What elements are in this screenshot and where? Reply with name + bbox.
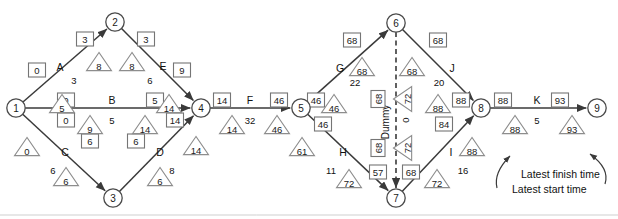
earliest-time-triangle: 46	[322, 94, 347, 113]
latest-time-value: 57	[373, 167, 384, 178]
latest-time-box: 88	[453, 93, 470, 107]
event-node-9[interactable]: 9	[588, 99, 606, 117]
latest-time-value: 84	[439, 119, 450, 130]
earliest-time-triangle: 72	[337, 169, 362, 188]
latest-time-value: 88	[456, 95, 467, 106]
latest-time-box: 57	[370, 165, 387, 179]
latest-time-box: 6	[82, 134, 99, 148]
earliest-time-value: 5	[59, 103, 64, 114]
earliest-time-triangle: 46	[265, 115, 290, 134]
event-node-label: 1	[13, 103, 19, 114]
latest-time-box: 46	[315, 117, 332, 131]
latest-time-value: 9	[179, 65, 184, 76]
earliest-time-triangle: 68	[400, 57, 425, 76]
event-node-6[interactable]: 6	[387, 14, 405, 32]
event-node-7[interactable]: 7	[387, 189, 405, 207]
latest-time-box: 68	[371, 91, 385, 108]
event-node-label: 3	[110, 193, 116, 204]
activity-duration-k: 5	[534, 115, 539, 126]
activity-name-h: H	[339, 146, 347, 158]
earliest-time-value: 8	[96, 61, 101, 72]
latest-time-value: 68	[347, 35, 358, 46]
earliest-time-value: 9	[87, 124, 92, 135]
event-node-label: 2	[112, 17, 118, 28]
earliest-time-triangle: 88	[426, 94, 451, 113]
earliest-time-value: 14	[191, 145, 202, 156]
earliest-time-value: 0	[24, 146, 29, 157]
latest-time-value: 46	[318, 119, 329, 130]
earliest-time-value: 72	[432, 178, 443, 189]
earliest-time-triangles-group: 5908814141466144668684661727288888893	[15, 52, 585, 188]
dummy-duration: 0	[400, 117, 411, 122]
activity-name-i: I	[450, 146, 453, 158]
earliest-time-triangle: 14	[133, 115, 158, 134]
event-node-1[interactable]: 1	[7, 99, 25, 117]
earliest-time-triangle: 14	[184, 136, 209, 155]
latest-time-box: 0	[29, 63, 46, 77]
event-node-label: 6	[393, 18, 399, 29]
latest-time-value: 0	[63, 115, 68, 126]
event-node-4[interactable]: 4	[192, 99, 210, 117]
earliest-time-triangle: 61	[290, 137, 315, 156]
latest-time-box: 88	[495, 93, 512, 107]
event-node-label: 8	[478, 103, 484, 114]
latest-time-value: 14	[217, 95, 228, 106]
earliest-time-triangle: 88	[503, 115, 528, 134]
latest-time-box: 46	[271, 93, 288, 107]
activity-duration-b: 5	[109, 115, 114, 126]
activity-duration-g: 22	[350, 77, 361, 88]
activity-duration-c: 6	[50, 165, 55, 176]
earliest-time-value: 93	[567, 124, 578, 135]
latest-time-value: 68	[373, 143, 384, 154]
earliest-time-triangle: 93	[560, 115, 585, 134]
latest-time-box: 68	[344, 33, 361, 47]
latest-time-box: 5	[147, 93, 164, 107]
earliest-time-value: 46	[329, 103, 340, 114]
latest-time-value: 68	[406, 167, 417, 178]
earliest-time-triangle: 6	[54, 167, 79, 186]
event-node-5[interactable]: 5	[292, 99, 310, 117]
earliest-time-value: 8	[129, 61, 134, 72]
activity-name-d: D	[156, 146, 164, 158]
earliest-time-triangle: 14	[220, 115, 245, 134]
latest-time-value: 46	[274, 95, 285, 106]
rotated-earliest-time-value: 72	[402, 143, 413, 154]
earliest-time-triangle: 9	[78, 115, 103, 134]
latest-time-box: 14	[214, 93, 231, 107]
latest-time-box: 93	[552, 93, 569, 107]
latest-time-value: 3	[143, 34, 148, 45]
latest-time-box: 84	[436, 117, 453, 131]
earliest-time-value: 88	[510, 124, 521, 135]
activity-labels-group: A3E6B5C6D8F32G22H11J20I16K5	[50, 60, 540, 176]
event-node-8[interactable]: 8	[472, 99, 490, 117]
network-diagram-canvas: Dummy 0 03390501466144646686888468457686…	[0, 0, 618, 219]
earliest-time-value: 68	[357, 66, 368, 77]
latest-time-value: 3	[82, 34, 87, 45]
latest-time-value: 0	[34, 65, 39, 76]
activity-duration-h: 11	[326, 165, 336, 176]
latest-time-value: 93	[555, 95, 566, 106]
event-node-3[interactable]: 3	[104, 189, 122, 207]
event-node-label: 7	[393, 193, 399, 204]
latest-time-value: 88	[498, 95, 509, 106]
latest-time-box: 14	[167, 113, 184, 127]
rotated-earliest-time-triangle: 72	[393, 87, 412, 112]
rotated-earliest-time-triangle: 72	[393, 136, 412, 161]
latest-time-box: 68	[430, 33, 447, 47]
latest-start-time-pointer	[496, 156, 510, 188]
latest-time-box: 0	[58, 113, 75, 127]
earliest-time-value: 72	[344, 178, 355, 189]
dummy-label: Dummy	[380, 105, 391, 139]
activity-duration-d: 8	[169, 165, 174, 176]
activity-name-g: G	[336, 62, 344, 74]
latest-time-value: 68	[433, 35, 444, 46]
latest-time-box: 3	[77, 32, 94, 46]
latest-time-box: 68	[403, 165, 420, 179]
earliest-time-triangle: 8	[120, 52, 145, 71]
latest-time-box: 68	[371, 140, 385, 157]
earliest-time-triangle: 8	[87, 52, 112, 71]
earliest-time-triangle: 72	[425, 169, 450, 188]
earliest-time-value: 88	[433, 103, 444, 114]
activity-name-c: C	[61, 146, 69, 158]
event-node-2[interactable]: 2	[106, 13, 124, 31]
